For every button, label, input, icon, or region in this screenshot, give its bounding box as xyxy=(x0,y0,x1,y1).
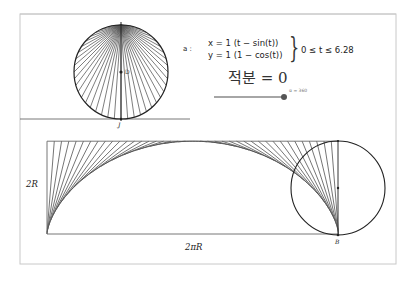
slider-value-label: α = 360 xyxy=(289,88,307,93)
tangent-segment xyxy=(295,141,333,215)
tangent-segment xyxy=(61,141,105,202)
y-equation: y = 1 (1 − cos(t)) xyxy=(208,50,283,60)
rolling-circle-top-point[interactable] xyxy=(337,140,339,142)
point-j-label: J xyxy=(118,121,120,128)
rolling-circle-center[interactable] xyxy=(337,187,339,189)
point-b[interactable] xyxy=(337,234,340,237)
width-label: 2πR xyxy=(185,242,202,252)
tangent-segment xyxy=(324,141,338,232)
tangent-segment xyxy=(280,141,324,202)
point-j[interactable] xyxy=(120,118,122,120)
x-equation: x = 1 (t − sin(t)) xyxy=(208,38,278,48)
point-b-label: B xyxy=(335,238,339,245)
tangent-segment xyxy=(47,141,61,232)
geogebra-canvas[interactable]: a : x = 1 (t − sin(t)) y = 1 (1 − cos(t)… xyxy=(0,0,417,281)
point-d-label: D xyxy=(125,68,130,75)
integral-text: 적분 = 0 xyxy=(228,66,288,87)
curve-name-label: a : xyxy=(183,45,192,53)
slider-knob[interactable] xyxy=(281,94,287,100)
cycloid-curve xyxy=(47,141,339,234)
center-point-d[interactable] xyxy=(119,70,122,73)
height-label: 2R xyxy=(26,179,38,189)
tangent-segment xyxy=(57,141,98,208)
parameter-range: 0 ≤ t ≤ 6.28 xyxy=(301,45,354,55)
tangent-segment xyxy=(53,141,91,215)
brace-symbol: } xyxy=(289,34,299,61)
